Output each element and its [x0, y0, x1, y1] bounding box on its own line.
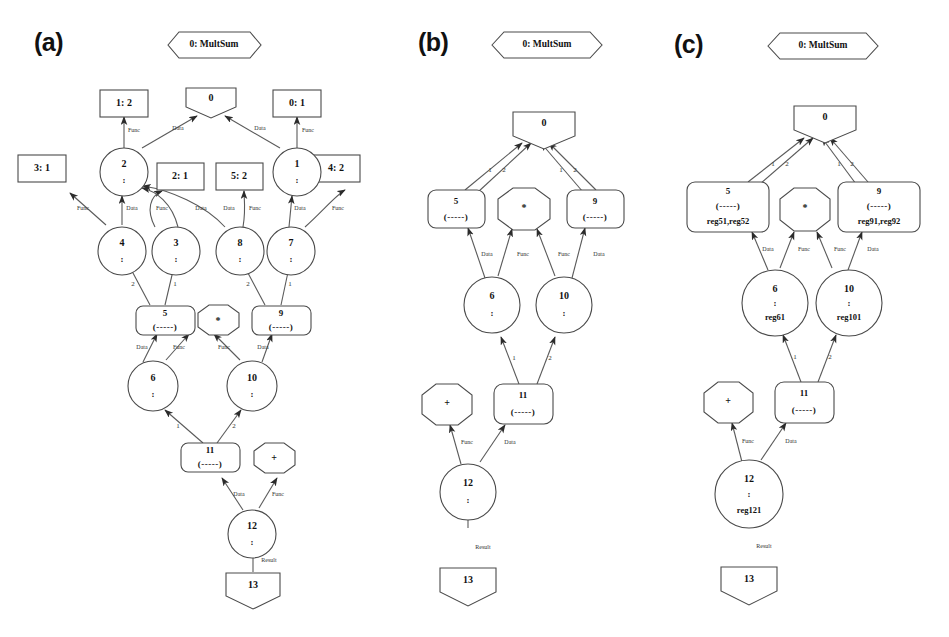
- node-rect-4-2-a-label: 4: 2: [328, 162, 344, 173]
- node-box-5-c-label: 5: [726, 186, 731, 196]
- edge-label-func: Func: [173, 344, 185, 350]
- node-box-9-c-label: 9: [877, 186, 882, 196]
- edge-index-1: 1: [837, 160, 841, 168]
- node-octagon-mult-c-label: *: [803, 202, 808, 213]
- node-rect-5-2-a-label: 5: 2: [231, 170, 247, 181]
- panel-a-graph: 1: 2 0: 1 0 3: 1 2: 1 5: 2 4: 2 2 : 1 : …: [0, 0, 400, 637]
- node-circle-8-a: [216, 227, 264, 275]
- edge-index-2: 2: [548, 354, 552, 362]
- edge-label-data: Data: [136, 344, 148, 350]
- node-box-5-a-label: 5: [163, 308, 168, 318]
- node-circle-12-b-label: 12: [463, 477, 473, 488]
- node-circle-10-a: [227, 361, 277, 411]
- node-box-9-b-label: 9: [593, 196, 598, 206]
- node-circle-1-a-label: 1: [295, 158, 300, 169]
- node-octagon-mult-a-label: *: [216, 315, 221, 326]
- node-circle-10-c-label: 10: [844, 283, 854, 294]
- edge-label-data: Data: [294, 205, 306, 211]
- edge-index-2: 2: [232, 422, 236, 430]
- node-circle-8-a-label: 8: [238, 237, 243, 248]
- edge-index-1: 1: [559, 166, 563, 174]
- edge-index-1: 1: [288, 280, 292, 288]
- panel-a: (a): [0, 0, 400, 637]
- node-circle-12-c-reg: reg121: [737, 505, 761, 515]
- node-circle-10-b-colon: :: [563, 308, 566, 318]
- node-octagon-mult-b-label: *: [522, 202, 527, 213]
- node-box-9-b-sub: (-----): [583, 212, 607, 222]
- node-circle-6-a-label: 6: [151, 372, 156, 383]
- node-circle-2-a-label: 2: [122, 158, 127, 169]
- edge-label-data: Data: [233, 491, 245, 497]
- edge-label-data: Data: [593, 251, 605, 257]
- edge-index-2: 2: [828, 353, 832, 361]
- edge-index-1: 1: [793, 353, 797, 361]
- node-circle-2-a-colon: :: [123, 175, 126, 185]
- node-circle-6-c-colon: :: [774, 298, 777, 308]
- edge-index-2: 2: [785, 160, 789, 168]
- node-circle-2-a: [100, 148, 148, 196]
- edge-label-func: Func: [272, 491, 284, 497]
- node-circle-7-a: [267, 227, 315, 275]
- edge-label-data: Data: [254, 125, 266, 131]
- edge-label-func: Func: [332, 205, 344, 211]
- node-pentagon-13-b-label: 13: [463, 574, 473, 585]
- panel-b: (b) 0: MultSum 0 5 (-----) 9 (---: [400, 0, 660, 637]
- node-box-11-c-sub: (-----): [792, 405, 816, 415]
- node-circle-4-a: [98, 227, 146, 275]
- edge-label-result: Result: [261, 557, 277, 563]
- edge-index-2: 2: [131, 280, 135, 288]
- node-box-5-a-sub: (-----): [153, 322, 177, 332]
- node-circle-12-a-colon: :: [251, 537, 254, 547]
- node-rect-0-1-a-label: 0: 1: [289, 97, 305, 108]
- edge-label-data: Data: [195, 205, 207, 211]
- edge-label-data: Data: [762, 246, 774, 252]
- node-circle-10-c-colon: :: [848, 298, 851, 308]
- header-hexagon-a-label: 0: MultSum: [190, 39, 239, 49]
- edge-index-1: 1: [488, 166, 492, 174]
- edge-label-func: Func: [128, 127, 140, 133]
- header-hexagon-b-label: 0: MultSum: [523, 39, 572, 49]
- node-circle-3-a-colon: :: [175, 254, 178, 264]
- edge-label-func: Func: [834, 246, 846, 252]
- node-octagon-plus-b-label: +: [444, 397, 450, 408]
- edge-label-func: Func: [461, 439, 473, 445]
- edge-label-func: Func: [558, 251, 570, 257]
- node-box-11-c-label: 11: [800, 388, 809, 398]
- edge-index-2: 2: [573, 166, 577, 174]
- node-circle-8-a-colon: :: [239, 254, 242, 264]
- node-octagon-plus-c-label: +: [725, 395, 731, 406]
- node-circle-6-a-colon: :: [152, 389, 155, 399]
- edge-label-func: Func: [517, 251, 529, 257]
- node-circle-10-a-colon: :: [251, 389, 254, 399]
- edge-label-data: Data: [257, 344, 269, 350]
- node-rect-3-1-a-label: 3: 1: [34, 162, 50, 173]
- node-circle-1-a: [273, 148, 321, 196]
- node-box-5-b-sub: (-----): [444, 212, 468, 222]
- edge-index-1: 1: [176, 422, 180, 430]
- node-circle-10-a-label: 10: [247, 372, 257, 383]
- edge-label-func: Func: [249, 205, 261, 211]
- node-circle-7-a-colon: :: [290, 254, 293, 264]
- node-box-11-a-label: 11: [206, 445, 215, 455]
- panel-c: (c) 0: MultSum 0 5 (-----) reg51,reg52 9…: [660, 0, 949, 637]
- node-rect-1-2-a-label: 1: 2: [116, 97, 132, 108]
- node-circle-10-c-reg: reg101: [837, 312, 861, 322]
- edge-index-2: 2: [850, 160, 854, 168]
- node-box-11-b-sub: (-----): [511, 407, 535, 417]
- node-circle-10-b-label: 10: [559, 290, 569, 301]
- node-box-11-b-label: 11: [519, 390, 528, 400]
- edge-index-1: 1: [512, 354, 516, 362]
- edge-index-2: 2: [502, 166, 506, 174]
- node-circle-6-b-label: 6: [490, 290, 495, 301]
- edge-label-data: Data: [785, 438, 797, 444]
- edge-label-data: Data: [481, 251, 493, 257]
- edge-label-data: Data: [126, 205, 138, 211]
- node-root-a-label: 0: [209, 92, 214, 103]
- node-circle-4-a-label: 4: [120, 237, 125, 248]
- node-circle-4-a-colon: :: [121, 254, 124, 264]
- node-circle-12-c-label: 12: [744, 473, 754, 484]
- edge-label-result: Result: [756, 543, 772, 549]
- node-circle-6-c-reg: reg61: [765, 312, 785, 322]
- node-circle-6-b: [464, 277, 520, 333]
- edge-label-data: Data: [504, 439, 516, 445]
